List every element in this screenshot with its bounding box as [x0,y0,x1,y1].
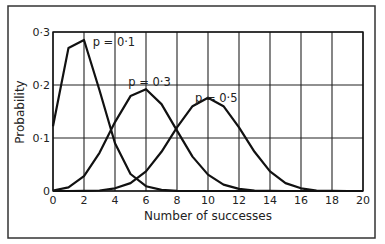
curve-label: p = 0·5 [195,91,238,105]
y-tick-label: 0 [43,185,50,198]
x-tick-label: 12 [232,194,246,207]
y-tick-label: 0·2 [33,79,51,92]
x-tick-label: 14 [263,194,277,207]
x-tick-label: 8 [174,194,181,207]
curve-label: p = 0·3 [128,75,171,89]
x-tick-label: 0 [50,194,57,207]
y-axis-label: Probability [13,80,27,143]
x-tick-label: 6 [143,194,150,207]
binomial-distribution-chart: 02468101214161820 00·10·20·3 p = 0·1p = … [0,0,385,244]
y-tick-labels: 00·10·20·3 [33,26,51,198]
x-tick-label: 2 [81,194,88,207]
curve-label: p = 0·1 [93,35,136,49]
x-tick-label: 4 [112,194,119,207]
outer-frame [8,6,375,238]
x-tick-label: 10 [201,194,215,207]
y-tick-label: 0·1 [33,132,51,145]
x-axis-label: Number of successes [144,209,272,223]
curve-annotations: p = 0·1p = 0·3p = 0·5 [93,35,238,105]
grid-lines [53,32,363,191]
x-tick-label: 20 [356,194,370,207]
x-tick-label: 16 [294,194,308,207]
y-tick-label: 0·3 [33,26,51,39]
x-tick-label: 18 [325,194,339,207]
x-tick-labels: 02468101214161820 [50,194,371,207]
